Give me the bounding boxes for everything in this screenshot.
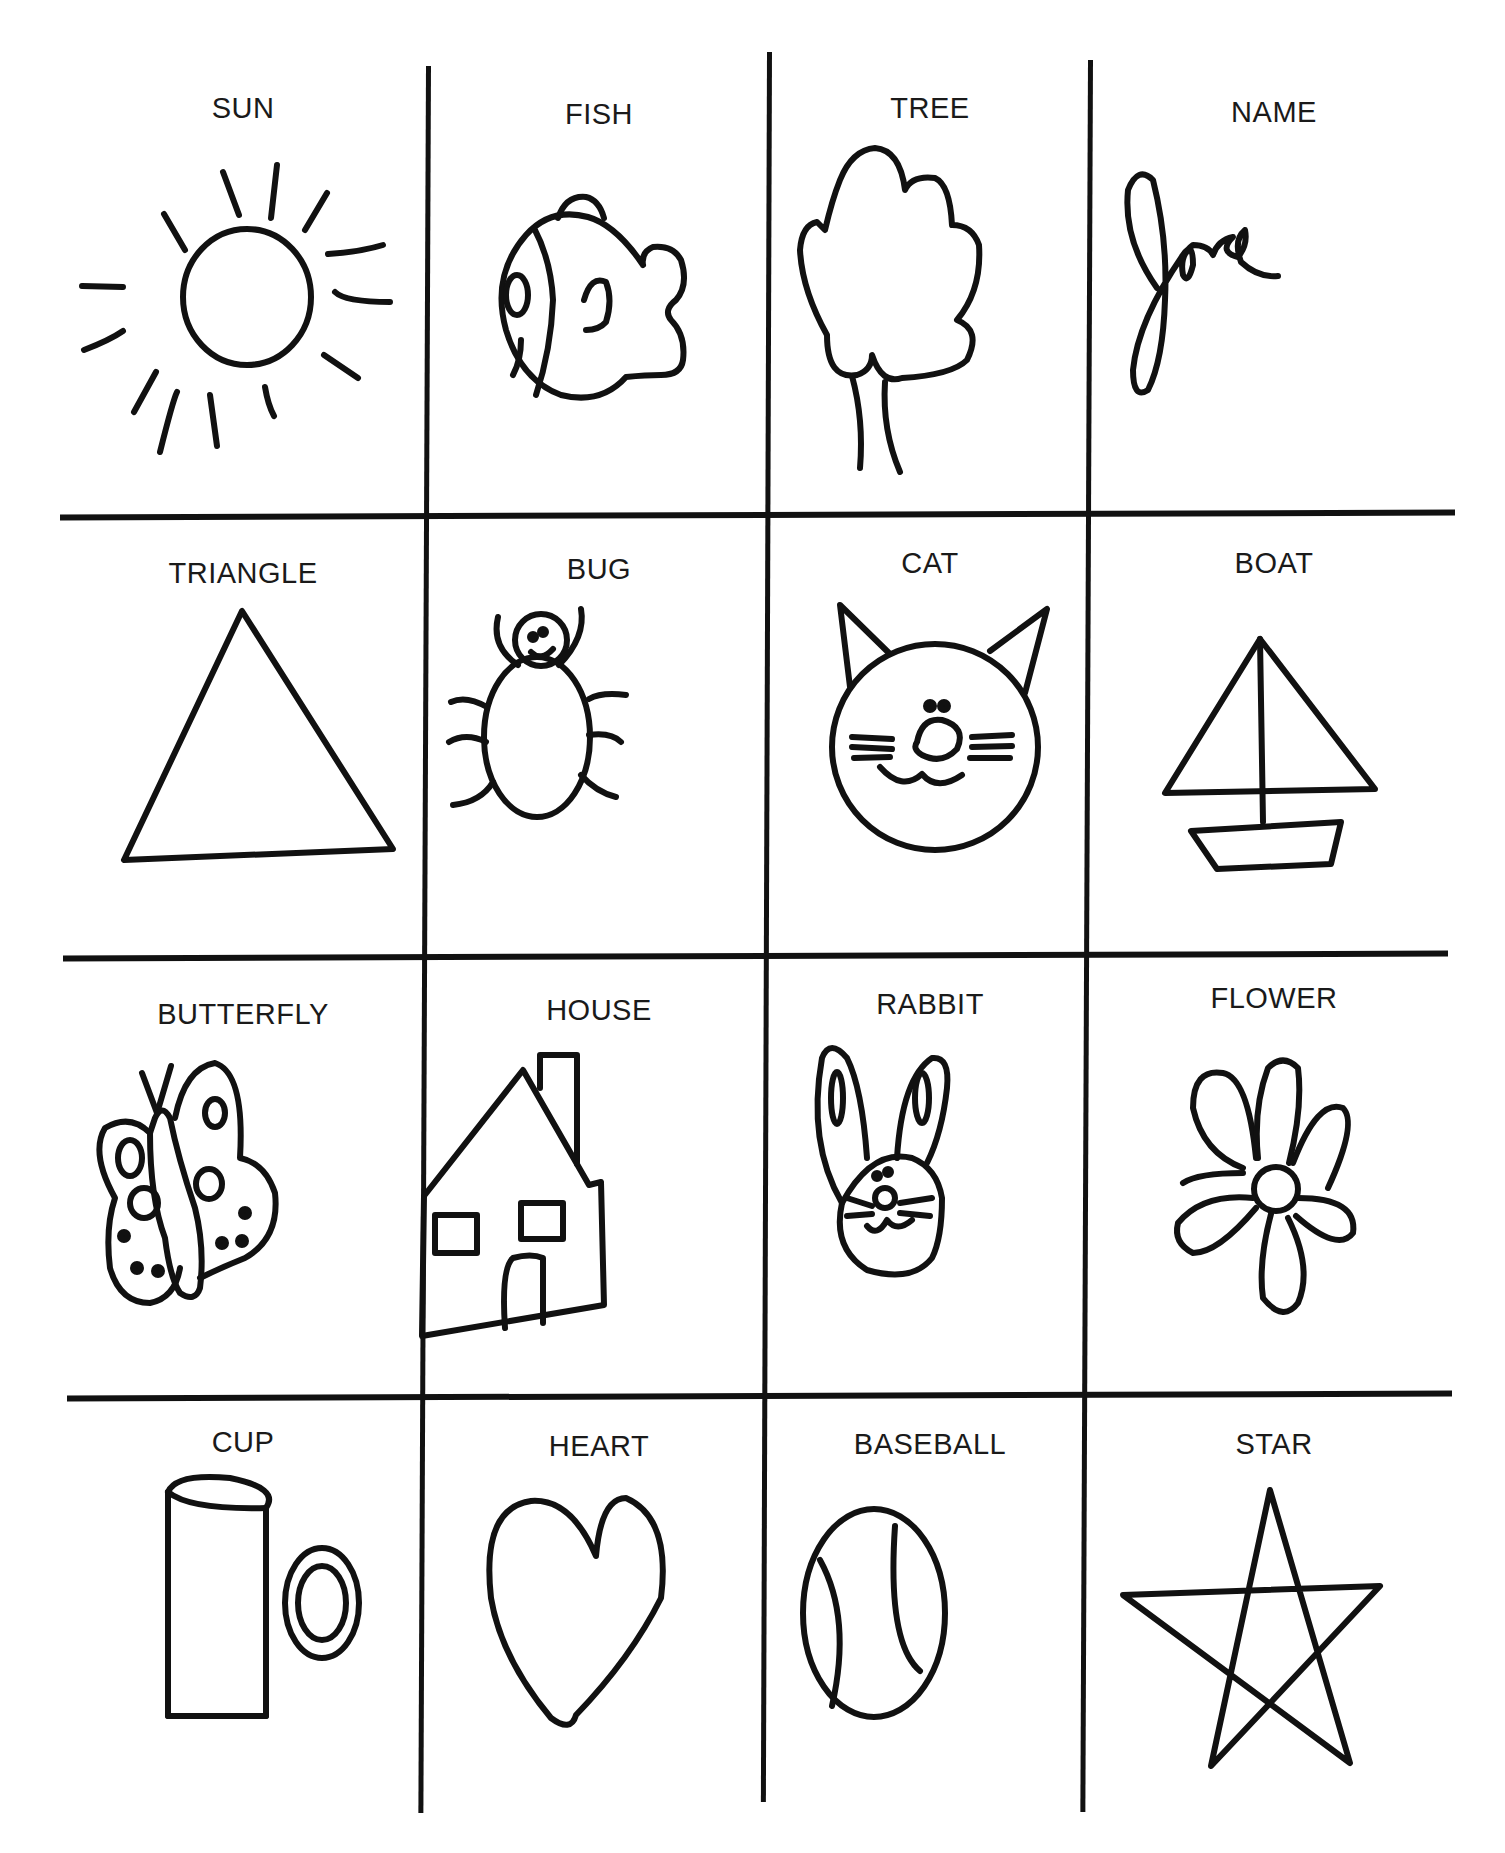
rabbit-icon [772,958,1088,1397]
cell-rabbit: RABBIT [772,958,1088,1393]
star-icon [1093,1398,1455,1817]
tree-icon [772,0,1088,516]
cell-star: STAR [1093,1398,1455,1813]
fish-icon [431,0,767,516]
cell-name: NAME Jose [1093,0,1455,512]
cell-bug: BUG [431,517,767,953]
flower-icon [1093,958,1455,1397]
cell-cup: CUP [60,1398,426,1813]
name-signature: Jose [1093,0,1455,516]
cell-fish: FISH [431,0,767,512]
cell-triangle: TRIANGLE [60,517,426,953]
cell-butterfly: BUTTERFLY [60,958,426,1393]
heart-icon [431,1398,767,1817]
cell-cat: CAT [772,517,1088,953]
butterfly-icon [60,958,426,1397]
cell-house: HOUSE [431,958,767,1393]
cell-sun: SUN [60,0,426,512]
cat-icon [772,517,1088,957]
cup-icon [60,1398,426,1817]
drawing-worksheet: SUN FISH [0,0,1505,1853]
triangle-icon [60,517,426,957]
bug-icon [431,517,767,957]
baseball-icon [772,1398,1088,1817]
cell-heart: HEART [431,1398,767,1813]
cell-tree: TREE [772,0,1088,512]
cell-baseball: BASEBALL [772,1398,1088,1813]
house-icon [431,958,767,1397]
cell-boat: BOAT [1093,517,1455,953]
sun-icon [60,0,426,516]
cell-flower: FLOWER [1093,958,1455,1393]
boat-icon [1093,517,1455,957]
